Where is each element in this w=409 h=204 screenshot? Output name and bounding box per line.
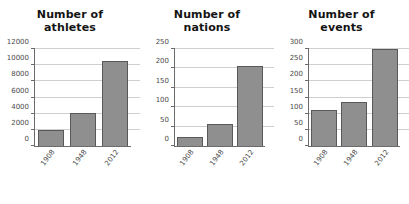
bar	[372, 49, 398, 146]
bars-row: 190819482012	[309, 49, 400, 146]
x-axis-tick-label: 1948	[344, 149, 360, 167]
x-axis-tick-label: 1948	[72, 149, 88, 167]
bar-slot: 1948	[67, 49, 99, 146]
chart-title-line: Number of	[0, 8, 140, 21]
plot-wrapper: 050100150200250190819482012	[140, 43, 274, 169]
x-axis-tick-label: 1908	[179, 149, 195, 167]
x-axis-tick-label: 1908	[313, 149, 329, 167]
x-axis-tick-label: 2012	[104, 149, 120, 167]
bar-slot: 2012	[99, 49, 131, 146]
bar-slot: 1908	[35, 49, 67, 146]
bar-chart-figure: Number ofathletes02000400060008000100001…	[0, 0, 409, 204]
chart-title-line: athletes	[0, 21, 140, 34]
bar	[311, 110, 337, 146]
bars-row: 190819482012	[175, 49, 265, 146]
bar	[341, 102, 367, 146]
plot-area: 050100150200250190819482012	[174, 49, 265, 147]
y-axis-tick-label: 150	[156, 77, 169, 84]
y-axis-tick-label: 0	[165, 136, 169, 143]
y-axis-tick-label: 100	[290, 103, 303, 110]
chart-panel-1: Number ofnations050100150200250190819482…	[140, 0, 274, 204]
y-axis-tick-label: 250	[156, 39, 169, 46]
bar	[102, 61, 128, 146]
y-axis-tick-label: 200	[290, 71, 303, 78]
y-axis-tick-label: 0	[299, 136, 303, 143]
bar-slot: 1908	[175, 49, 205, 146]
bars-row: 190819482012	[35, 49, 131, 146]
plot-area: 050100150200250300190819482012	[308, 49, 400, 147]
bar	[38, 130, 64, 146]
y-axis-tick-label: 50	[160, 116, 169, 123]
bar	[177, 137, 203, 146]
x-axis-tick-label: 2012	[239, 149, 255, 167]
y-axis-tick-label: 6000	[11, 87, 29, 94]
y-axis-tick-label: 50	[294, 119, 303, 126]
y-axis-tick-label: 10000	[7, 55, 29, 62]
y-axis-tick-label: 8000	[11, 71, 29, 78]
y-axis-tick-label: 0	[25, 136, 29, 143]
y-axis-tick-label: 12000	[7, 39, 29, 46]
plot-wrapper: 020004000600080001000012000190819482012	[0, 43, 140, 169]
bar-slot: 1908	[309, 49, 339, 146]
chart-title-line: nations	[140, 21, 274, 34]
plot-area: 020004000600080001000012000190819482012	[34, 49, 131, 147]
x-axis-tick-label: 2012	[374, 149, 390, 167]
bar-slot: 1948	[205, 49, 235, 146]
bar	[207, 124, 233, 146]
y-axis-tick-label: 4000	[11, 103, 29, 110]
chart-title: Number ofnations	[140, 0, 274, 34]
chart-panel-2: Number ofevents0501001502002503001908194…	[274, 0, 409, 204]
chart-title-line: Number of	[274, 8, 409, 21]
x-axis-tick-label: 1908	[40, 149, 56, 167]
chart-panel-0: Number ofathletes02000400060008000100001…	[0, 0, 140, 204]
y-axis-tick-label: 100	[156, 97, 169, 104]
bar	[237, 66, 263, 146]
bar-slot: 2012	[235, 49, 265, 146]
chart-title-line: Number of	[140, 8, 274, 21]
y-axis-tick-label: 250	[290, 55, 303, 62]
y-axis-tick-label: 300	[290, 39, 303, 46]
chart-title: Number ofathletes	[0, 0, 140, 34]
y-axis-tick-label: 150	[290, 87, 303, 94]
y-axis-tick-label: 200	[156, 58, 169, 65]
bar	[70, 113, 96, 146]
bar-slot: 1948	[339, 49, 369, 146]
y-axis-tick-label: 2000	[11, 119, 29, 126]
bar-slot: 2012	[370, 49, 400, 146]
chart-title-line: events	[274, 21, 409, 34]
plot-wrapper: 050100150200250300190819482012	[274, 43, 409, 169]
chart-title: Number ofevents	[274, 0, 409, 34]
x-axis-tick-label: 1948	[209, 149, 225, 167]
